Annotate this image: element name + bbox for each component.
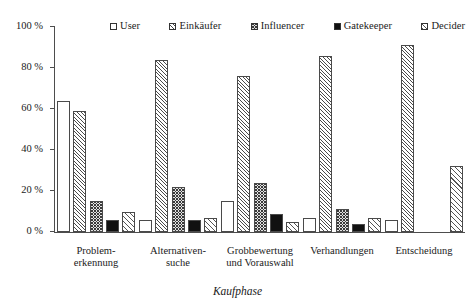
bar-slot [416,27,432,232]
bar-influencer[interactable] [254,183,267,232]
bar-slot [219,27,235,232]
bar-slot [203,27,219,232]
bar-gatekeeper[interactable] [352,224,365,232]
bar-decider[interactable] [368,218,381,232]
y-axis-tick-label: 40 % [21,144,43,155]
bar-slot [301,27,317,232]
bar-slot [350,27,366,232]
x-axis-title: Kaufphase [0,285,475,297]
bar-gatekeeper[interactable] [106,220,119,232]
bar-slot [55,27,71,232]
bar-slot [449,27,465,232]
bar-slot [367,27,383,232]
y-axis-tick-label: 0 % [26,226,43,237]
bar-einkufer[interactable] [237,76,250,232]
x-axis-category-label: Problem-erkennung [55,245,137,279]
bar-decider[interactable] [204,218,217,232]
bar-slot [268,27,284,232]
bar-influencer[interactable] [172,187,185,232]
bar-slot [71,27,87,232]
bar-decider[interactable] [450,166,463,232]
bar-group [301,27,383,232]
bar-einkufer[interactable] [155,60,168,232]
bar-slot [317,27,333,232]
bar-chart: User Einkäufer Influencer Gatekeeper Dec… [0,0,475,306]
bar-user[interactable] [57,101,70,232]
bar-slot [121,27,137,232]
x-axis-category-label: Grobbewertungund Vorauswahl [219,245,301,279]
bar-einkufer[interactable] [401,45,414,232]
bar-influencer[interactable] [90,201,103,232]
bar-slot [334,27,350,232]
bar-group [137,27,219,232]
x-axis-category-labels: Problem-erkennungAlternativen-sucheGrobb… [55,245,465,279]
bar-slot [285,27,301,232]
bar-user[interactable] [139,220,152,232]
x-axis-line [54,232,465,233]
bar-slot [235,27,251,232]
y-axis-tick-label: 20 % [21,185,43,196]
bar-gatekeeper[interactable] [270,214,283,232]
bar-einkufer[interactable] [319,56,332,232]
bar-group [55,27,137,232]
bar-user[interactable] [385,220,398,232]
bar-einkufer[interactable] [73,111,86,232]
bar-decider[interactable] [286,222,299,232]
bar-user[interactable] [303,218,316,232]
x-axis-category-label: Entscheidung [383,245,465,279]
x-axis-category-label: Verhandlungen [301,245,383,279]
y-axis-tick-label: 100 % [16,21,43,32]
bar-slot [104,27,120,232]
plot-area: 0 %20 %40 %60 %80 %100 % [55,27,465,232]
bar-decider[interactable] [122,212,135,233]
bar-slot [252,27,268,232]
y-axis-tick-label: 80 % [21,62,43,73]
bar-slot [170,27,186,232]
bar-influencer[interactable] [336,209,349,232]
bar-slot [153,27,169,232]
bar-slot [432,27,448,232]
bar-slot [399,27,415,232]
bar-slot [88,27,104,232]
bar-slot [137,27,153,232]
bar-gatekeeper[interactable] [188,220,201,232]
y-axis-tick-label: 60 % [21,103,43,114]
bar-group [383,27,465,232]
x-axis-category-label: Alternativen-suche [137,245,219,279]
bar-group [219,27,301,232]
bar-slot [383,27,399,232]
bar-slot [186,27,202,232]
bar-user[interactable] [221,201,234,232]
